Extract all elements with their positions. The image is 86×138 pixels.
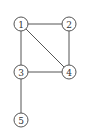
node-label: 3 — [18, 68, 24, 78]
node-2: 2 — [62, 17, 76, 31]
node-5: 5 — [14, 113, 28, 127]
node-1: 1 — [14, 17, 28, 31]
edge-1-4 — [21, 24, 69, 72]
node-3: 3 — [14, 65, 28, 79]
graph-diagram: 1 2 3 4 5 — [0, 0, 86, 138]
node-label: 2 — [66, 20, 72, 30]
node-label: 4 — [66, 68, 72, 78]
node-label: 5 — [18, 116, 24, 126]
node-4: 4 — [62, 65, 76, 79]
node-label: 1 — [18, 20, 24, 30]
